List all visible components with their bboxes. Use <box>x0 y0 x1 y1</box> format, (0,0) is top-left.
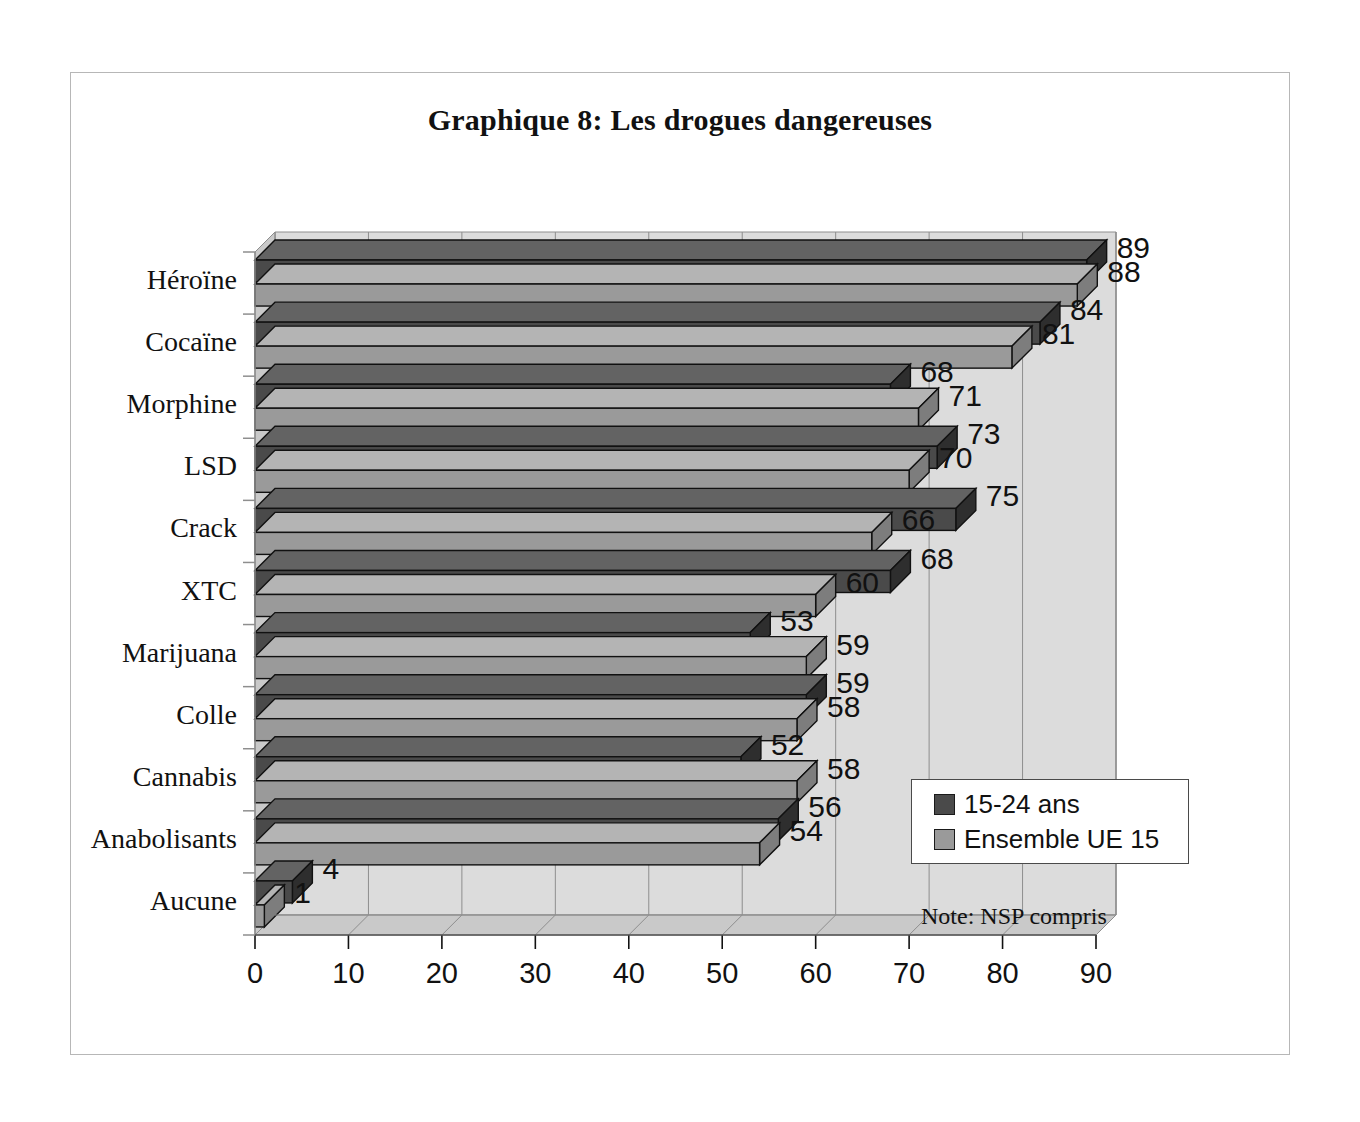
x-axis-tick-label-30: 30 <box>519 957 551 990</box>
x-axis-tick-label-50: 50 <box>706 957 738 990</box>
y-axis-label-7: Colle <box>0 699 237 731</box>
x-axis-tick-label-20: 20 <box>426 957 458 990</box>
bar-value-label-s2-6: 59 <box>836 628 869 662</box>
y-axis-label-8: Cannabis <box>0 761 237 793</box>
bar-series2-7-top <box>255 699 817 719</box>
x-axis-tick-label-60: 60 <box>800 957 832 990</box>
bar-value-label-s2-4: 66 <box>902 503 935 537</box>
bar-value-label-s1-4: 75 <box>986 479 1019 513</box>
y-axis-label-2: Morphine <box>0 388 237 420</box>
bar-value-label-s2-10: 1 <box>294 876 311 910</box>
bar-value-label-s1-5: 68 <box>920 542 953 576</box>
x-axis-tick-label-0: 0 <box>247 957 263 990</box>
bar-value-label-s1-10: 4 <box>322 852 339 886</box>
bar-value-label-s2-2: 71 <box>948 379 981 413</box>
y-axis-label-6: Marijuana <box>0 637 237 669</box>
bar-series1-0-top <box>255 240 1107 260</box>
bar-series1-3-top <box>255 426 957 446</box>
chart-canvas <box>0 0 1360 1122</box>
bar-series1-7-top <box>255 675 826 695</box>
bar-series1-1-top <box>255 302 1060 322</box>
y-axis-label-1: Cocaïne <box>0 326 237 358</box>
bar-series2-5-top <box>255 575 836 595</box>
y-axis-label-3: LSD <box>0 450 237 482</box>
x-axis-tick-label-90: 90 <box>1080 957 1112 990</box>
x-axis-tick-label-70: 70 <box>893 957 925 990</box>
legend-label-ensemble-ue-15: Ensemble UE 15 <box>964 824 1159 855</box>
bar-series1-6-top <box>255 613 770 633</box>
legend-swatch-15-24-ans <box>934 794 955 815</box>
bar-value-label-s2-8: 58 <box>827 752 860 786</box>
bar-value-label-s2-7: 58 <box>827 690 860 724</box>
bar-value-label-s2-0: 88 <box>1107 255 1140 289</box>
bar-series2-1-top <box>255 326 1032 346</box>
chart-plot-area: HéroïneCocaïneMorphineLSDCrackXTCMarijua… <box>0 0 1360 1122</box>
bar-value-label-s2-3: 70 <box>939 441 972 475</box>
legend-item-series-2: Ensemble UE 15 <box>934 822 1188 857</box>
bar-value-label-s1-8: 52 <box>771 728 804 762</box>
bar-series2-3-top <box>255 450 929 470</box>
legend-swatch-ensemble-ue-15 <box>934 829 955 850</box>
y-axis-label-10: Aucune <box>0 885 237 917</box>
bar-series1-2-top <box>255 364 910 384</box>
bar-value-label-s1-6: 53 <box>780 604 813 638</box>
bar-value-label-s2-1: 81 <box>1042 317 1075 351</box>
bar-series2-4-top <box>255 512 892 532</box>
bar-value-label-s2-5: 60 <box>846 566 879 600</box>
legend-label-15-24-ans: 15-24 ans <box>964 789 1080 820</box>
bar-series2-10-front <box>255 905 264 927</box>
x-axis-tick-label-80: 80 <box>986 957 1018 990</box>
bar-series1-9-top <box>255 799 798 819</box>
y-axis-label-0: Héroïne <box>0 264 237 296</box>
y-axis-label-9: Anabolisants <box>0 823 237 855</box>
bar-series2-2-top <box>255 388 938 408</box>
bar-series2-8-top <box>255 761 817 781</box>
legend-item-series-1: 15-24 ans <box>934 787 1188 822</box>
chart-note: Note: NSP compris <box>921 903 1107 930</box>
bar-series2-9-top <box>255 823 780 843</box>
bar-series1-8-top <box>255 737 761 757</box>
chart-legend: 15-24 ans Ensemble UE 15 <box>911 779 1189 864</box>
bar-series1-4-top <box>255 488 976 508</box>
x-axis-tick-label-40: 40 <box>613 957 645 990</box>
x-axis-tick-label-10: 10 <box>332 957 364 990</box>
bar-series1-5-top <box>255 551 910 571</box>
y-axis-label-4: Crack <box>0 512 237 544</box>
bar-series2-0-top <box>255 264 1097 284</box>
bar-value-label-s2-9: 54 <box>790 814 823 848</box>
bar-series2-6-top <box>255 637 826 657</box>
y-axis-label-5: XTC <box>0 575 237 607</box>
